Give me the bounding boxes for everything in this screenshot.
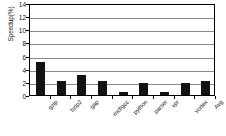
y-tick-label: 6 [12,53,26,60]
x-category-label: gzip [47,99,59,111]
y-tick-label: 2 [12,79,26,86]
y-tick-label: 8 [12,40,26,47]
x-category-label: mcf/gcc [112,99,131,118]
x-category-label: vpr [171,99,182,110]
y-tickmark [26,43,29,44]
y-tick-label: 10 [12,27,26,34]
bar [36,62,45,95]
y-tickmark [26,70,29,71]
y-axis-tick-labels: 02468101214 [12,4,26,96]
bar [98,81,107,95]
bar [119,92,128,95]
bar [77,75,86,95]
bar [139,83,148,95]
y-tickmark [26,30,29,31]
x-category-label: vortex [194,99,210,115]
x-axis-category-labels: gzipbzip2gapmcf/gccpythonparservprvortex… [29,99,215,136]
bar [57,81,66,95]
y-tickmark [26,83,29,84]
x-category-label: parser [152,99,168,115]
y-tickmark [26,57,29,58]
bar [181,83,190,95]
y-tick-label: 4 [12,66,26,73]
plot-area [29,4,215,96]
y-tick-label: 12 [12,14,26,21]
x-category-label: python [132,99,149,116]
bars-group [30,5,214,95]
bar [160,92,169,95]
x-category-label: Avg [213,99,225,111]
bar [201,81,210,95]
x-category-label: gap [88,99,100,111]
y-tick-label: 14 [12,1,26,8]
y-tick-label: 0 [12,93,26,100]
x-tickmark [215,96,216,99]
x-category-label: bzip2 [69,99,84,114]
y-tickmark [26,17,29,18]
y-tickmark [26,4,29,5]
bar-chart: Speedup(%) 02468101214 gzipbzip2gapmcf/g… [0,0,226,136]
